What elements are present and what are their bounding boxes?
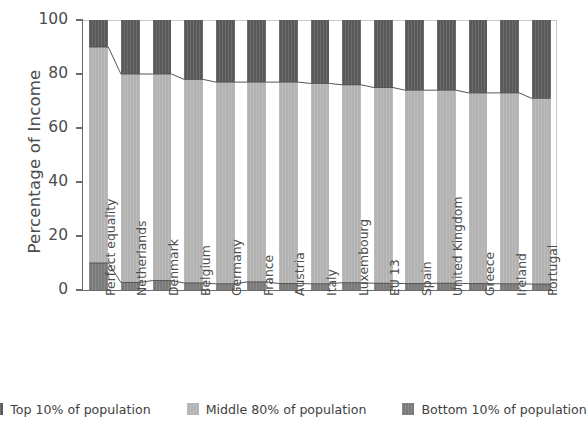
y-axis-tick: [76, 73, 83, 74]
legend-item: Middle 80% of population: [187, 402, 367, 417]
y-axis-tick-label: 40: [0, 172, 68, 190]
plot-area: [82, 20, 557, 291]
x-axis-tick-label: Greece: [482, 252, 497, 296]
chart-legend: Top 10% of populationMiddle 80% of popul…: [0, 398, 578, 420]
legend-label: Middle 80% of population: [206, 402, 367, 417]
boundary-connector-lines: [83, 20, 557, 290]
x-axis-tick-label: United Kingdom: [450, 197, 465, 296]
y-axis-tick: [76, 19, 83, 20]
y-axis-tick-label: 0: [0, 280, 68, 298]
x-axis-tick-label: EU 13: [387, 259, 402, 296]
connector-line-top-10-boundary: [89, 47, 550, 98]
y-axis-tick: [76, 181, 83, 182]
y-axis-tick: [76, 235, 83, 236]
legend-swatch-icon: [402, 403, 414, 415]
legend-item: Bottom 10% of population: [402, 402, 586, 417]
x-axis-tick-label: Austria: [292, 252, 307, 296]
y-axis-tick-label: 100: [0, 10, 68, 28]
plot-inner: [83, 20, 557, 290]
y-axis-tick-label: 80: [0, 64, 68, 82]
y-axis-tick-label: 20: [0, 226, 68, 244]
x-axis-tick-label: Germany: [229, 239, 244, 296]
legend-label: Bottom 10% of population: [421, 402, 586, 417]
legend-label: Top 10% of population: [10, 402, 150, 417]
x-axis-tick-label: Spain: [419, 261, 434, 296]
x-axis-tick-label: Belgium: [198, 245, 213, 296]
x-axis-tick-label: Luxembourg: [356, 219, 371, 296]
x-axis-tick-label: Ireland: [514, 253, 529, 296]
x-axis-tick-label: Netherlands: [134, 220, 149, 296]
y-axis-tick: [76, 127, 83, 128]
y-axis-tick: [76, 289, 83, 290]
legend-swatch-icon: [187, 403, 199, 415]
legend-swatch-icon: [0, 403, 3, 415]
x-axis-tick-label: Perfect equality: [103, 199, 118, 296]
x-axis-tick-label: France: [261, 255, 276, 296]
x-axis-tick-label: Italy: [324, 269, 339, 296]
legend-item: Top 10% of population: [0, 402, 151, 417]
x-axis-tick-label: Portugal: [545, 245, 560, 296]
x-axis-tick-label: Denmark: [166, 239, 181, 296]
y-axis-tick-label: 60: [0, 118, 68, 136]
